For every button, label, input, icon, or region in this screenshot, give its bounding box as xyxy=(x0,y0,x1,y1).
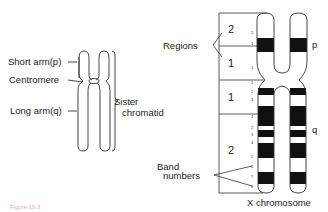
band-q1-1: 1 xyxy=(251,81,253,85)
label-sister-line2: chromatid xyxy=(122,108,164,118)
label-sister-line1: Sister xyxy=(114,97,138,107)
band-p2-1: 1 xyxy=(251,42,253,46)
label-regions: Regions xyxy=(163,41,198,51)
figure-caption: Figure 10.3 xyxy=(10,204,40,210)
band-p1-1: 1 xyxy=(251,66,253,70)
left-chromatid-lower xyxy=(78,81,91,151)
band-q2-2: 2 xyxy=(251,126,253,130)
band-p2-2: 2 xyxy=(251,31,253,35)
band-q2-3: 3 xyxy=(251,133,253,137)
band-q2-5: 5 xyxy=(251,155,253,159)
region-q1: 1 xyxy=(228,92,234,103)
label-arm-q: q xyxy=(312,125,317,135)
left-chromatid-upper xyxy=(79,51,92,80)
x-chromosome-outline-upper xyxy=(257,13,307,94)
right-chromatid-lower xyxy=(97,81,110,151)
label-band-line2: numbers xyxy=(163,171,200,181)
label-long-arm: Long arm(q) xyxy=(10,106,62,116)
region-p2: 2 xyxy=(228,24,234,35)
region-q2: 2 xyxy=(228,145,234,156)
band-q2-1: 1 xyxy=(251,115,253,119)
centromere xyxy=(89,79,99,84)
band-q2-6: 6 xyxy=(251,165,253,169)
right-chromatid-upper xyxy=(96,51,109,81)
band-q2-4: 4 xyxy=(251,141,253,145)
band-q2-8: 8 xyxy=(251,185,253,189)
label-arm-p: p xyxy=(312,40,317,50)
region-p1: 1 xyxy=(228,58,234,69)
label-centromere: Centromere xyxy=(9,75,59,85)
band-q1-2: 2 xyxy=(251,90,253,94)
band-q2-7: 7 xyxy=(251,175,253,179)
chromosome-title: X chromosome xyxy=(247,198,311,208)
band-q1-3: 3 xyxy=(251,98,253,102)
label-short-arm: Short arm(p) xyxy=(8,57,61,67)
